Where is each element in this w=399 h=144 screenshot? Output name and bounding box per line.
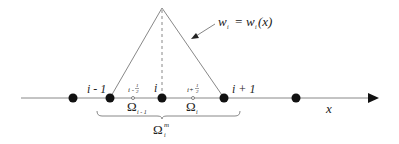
svg-text:i: i [227, 24, 229, 30]
node-i-minus-2 [69, 94, 78, 103]
node-label-i-minus-1: i - 1 [87, 82, 106, 96]
svg-text:i -: i - [128, 86, 135, 94]
node-label-i: i [154, 81, 157, 95]
svg-text:1: 1 [196, 83, 199, 88]
svg-text:Ω: Ω [127, 99, 137, 114]
union-domain-label-omega-i-m: Ω i m [153, 121, 169, 138]
pointer-line [196, 24, 215, 36]
node-i-plus-2 [292, 94, 301, 103]
svg-text:i - 1: i - 1 [137, 109, 147, 115]
svg-text:i: i [164, 132, 166, 138]
node-i-plus-1 [220, 94, 229, 103]
node-label-i-plus-1: i + 1 [232, 82, 255, 96]
half-point-label-right: i+ 1 2 [187, 83, 199, 94]
x-axis-label: x [325, 101, 332, 116]
svg-text:2: 2 [196, 89, 199, 94]
svg-text:i+: i+ [187, 86, 194, 94]
svg-text:i: i [196, 109, 198, 115]
svg-text:w: w [246, 14, 255, 29]
subdomain-label-omega-i-minus-1: Ω i - 1 [127, 99, 147, 115]
svg-text:=: = [231, 14, 246, 29]
half-point-label-left: i - 1 2 [128, 83, 139, 94]
weight-function-label: w i = w i (x) [218, 14, 272, 30]
svg-text:2: 2 [136, 89, 139, 94]
svg-text:m: m [164, 121, 169, 129]
subdomain-label-omega-i: Ω i [186, 99, 198, 115]
svg-text:(x): (x) [258, 14, 272, 29]
pointer-arrow-icon [191, 33, 199, 39]
union-underbrace [97, 111, 240, 119]
svg-text:i: i [255, 24, 257, 30]
node-i-minus-1 [106, 94, 115, 103]
svg-text:Ω: Ω [153, 122, 163, 137]
hat-function-curve [110, 8, 224, 98]
svg-text:1: 1 [136, 83, 139, 88]
svg-text:w: w [218, 14, 227, 29]
hat-function-diagram: x i - 1 i i + 1 i - 1 2 i+ 1 2 Ω i - 1 Ω… [0, 0, 399, 144]
svg-text:Ω: Ω [186, 99, 196, 114]
node-i [158, 94, 167, 103]
x-axis-arrow-icon [368, 93, 379, 103]
